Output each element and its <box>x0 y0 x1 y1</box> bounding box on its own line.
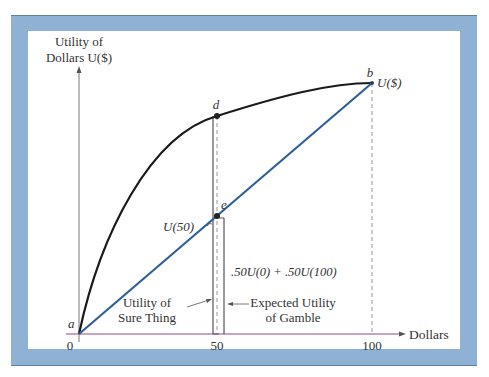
y-axis-arrow-icon <box>77 66 82 73</box>
curve-label: U($) <box>377 75 402 90</box>
point-e <box>214 213 220 219</box>
x-axis-arrow-icon <box>399 332 406 337</box>
gamble-label-line1: Expected Utility <box>250 295 336 310</box>
gamble-label-line2: of Gamble <box>265 310 320 325</box>
x-axis-label: Dollars <box>409 327 449 342</box>
point-d <box>214 113 220 119</box>
label-e: e <box>221 197 227 212</box>
sure-thing-label-line2: Sure Thing <box>118 310 176 325</box>
utility-diagram: Utility of Dollars U($) d e b a U($) U(5… <box>0 0 489 377</box>
point-b <box>370 81 374 85</box>
label-b: b <box>367 65 374 80</box>
x-tick-100: 100 <box>362 338 382 353</box>
y-axis-label-line2: Dollars U($) <box>46 50 112 65</box>
label-d: d <box>213 97 220 112</box>
u50-label: U(50) <box>163 219 194 234</box>
expected-formula: .50U(0) + .50U(100) <box>231 265 337 279</box>
y-axis-label-line1: Utility of <box>55 34 104 49</box>
label-a: a <box>68 316 75 331</box>
sure-thing-label-line1: Utility of <box>123 295 172 310</box>
sure-thing-pointer <box>187 300 209 307</box>
x-tick-50: 50 <box>211 338 224 353</box>
x-tick-0: 0 <box>67 338 74 353</box>
